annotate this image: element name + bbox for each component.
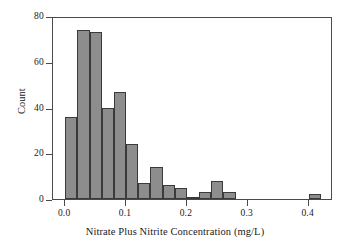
y-axis-title: Count [17,71,28,131]
x-axis-title: Nitrate Plus Nitrite Concentration (mg/L… [0,226,350,237]
bars-layer [53,18,331,199]
x-axis-tick-label: 0.3 [227,208,267,218]
x-axis-tick [247,200,248,206]
histogram-bar [65,117,77,199]
y-axis-tick-label: 60 [34,58,44,68]
histogram-figure: Count 020406080 0.00.10.20.30.4 Nitrate … [0,0,350,247]
x-axis-tick-label: 0.2 [166,208,206,218]
histogram-bar [138,183,150,199]
y-axis-tick-label: 80 [34,12,44,22]
histogram-bar [175,188,187,199]
histogram-bar [309,194,321,199]
histogram-bar [102,108,114,200]
histogram-bar [163,185,175,199]
plot-area [52,17,332,200]
histogram-bar [150,167,162,199]
x-axis-tick-label: 0.4 [288,208,328,218]
histogram-bar [199,192,211,199]
y-axis-tick-label: 40 [34,104,44,114]
x-axis-tick [125,200,126,206]
histogram-bar [90,32,102,199]
histogram-bar [187,197,199,199]
y-axis-tick-label: 20 [34,149,44,159]
y-axis-tick [46,200,52,201]
x-axis-tick [186,200,187,206]
y-axis-tick-label: 0 [39,195,44,205]
histogram-bar [114,92,126,200]
histogram-bar [223,192,235,199]
x-axis-tick [64,200,65,206]
x-axis-tick-label: 0.1 [105,208,145,218]
x-axis-tick-label: 0.0 [44,208,84,218]
histogram-bar [126,144,138,199]
histogram-bar [211,181,223,199]
histogram-bar [77,30,89,199]
x-axis-tick [308,200,309,206]
